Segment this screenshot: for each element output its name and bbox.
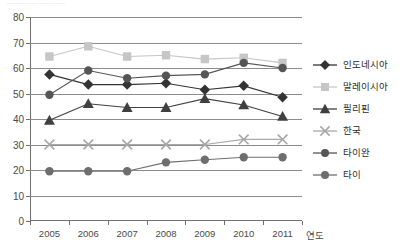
y-tick-label: 60: [13, 63, 24, 74]
plot-area: 80706050403020100 2005200620072008200920…: [30, 17, 302, 221]
x-tick-mark: [302, 221, 303, 225]
data-point: [45, 167, 53, 175]
circle-marker-icon: [312, 146, 338, 160]
x-tick-mark: [69, 221, 70, 225]
y-tick-label: 70: [13, 37, 24, 48]
x-tick-label: 2011: [272, 228, 292, 239]
series-4: [45, 59, 287, 99]
series-2: [44, 93, 288, 125]
data-point: [44, 115, 55, 125]
data-point: [84, 42, 92, 50]
data-point: [84, 167, 92, 175]
circle-marker-icon: [312, 168, 338, 182]
data-point: [278, 153, 286, 161]
series-3: [45, 135, 288, 150]
cross-marker-icon: [312, 124, 338, 138]
x-tick-mark: [263, 221, 264, 225]
x-tick-label: 2008: [155, 228, 176, 239]
data-point: [277, 92, 288, 103]
data-point: [84, 66, 92, 74]
diamond-marker-icon: [312, 58, 338, 72]
y-tick-label: 0: [18, 216, 24, 227]
series-layer: [30, 17, 302, 221]
legend-item[interactable]: 필리핀: [312, 102, 402, 116]
data-point: [199, 93, 210, 103]
x-tick-mark: [147, 221, 148, 225]
data-point: [162, 51, 170, 59]
data-point: [123, 52, 131, 60]
y-tick-label: 40: [13, 114, 24, 125]
x-tick-mark: [30, 221, 31, 225]
data-point: [278, 64, 286, 72]
triangle-marker-icon: [312, 102, 338, 116]
data-point: [45, 52, 53, 60]
data-point: [123, 167, 131, 175]
legend-label: 한국: [343, 124, 361, 138]
clipped-header-text: ——— —— —— ——: [6, 0, 126, 6]
x-tick-mark: [224, 221, 225, 225]
x-axis-title: 연도: [306, 228, 324, 242]
legend-item[interactable]: 타이완: [312, 146, 402, 160]
y-tick-label: 10: [13, 190, 24, 201]
x-tick-label: 2006: [78, 228, 99, 239]
legend-item[interactable]: 인도네시아: [312, 58, 402, 72]
data-point: [83, 79, 94, 90]
legend-item[interactable]: 타이: [312, 168, 402, 182]
x-tick-label: 2005: [39, 228, 60, 239]
legend-label: 인도네시아: [343, 58, 388, 72]
legend-label: 타이: [343, 168, 361, 182]
data-point: [123, 74, 131, 82]
data-point: [162, 158, 170, 166]
y-tick-label: 20: [13, 165, 24, 176]
y-tick-label: 80: [13, 12, 24, 23]
data-point: [240, 59, 248, 67]
y-tick-label: 50: [13, 88, 24, 99]
square-marker-icon: [312, 80, 338, 94]
y-tick-label: 30: [13, 139, 24, 150]
series-5: [45, 153, 287, 175]
data-point: [201, 156, 209, 164]
x-tick-label: 2009: [194, 228, 215, 239]
data-point: [162, 71, 170, 79]
x-tick-mark: [108, 221, 109, 225]
x-tick-mark: [185, 221, 186, 225]
x-tick-label: 2010: [233, 228, 254, 239]
data-point: [238, 81, 249, 92]
data-point: [201, 70, 209, 78]
legend-label: 타이완: [343, 146, 370, 160]
chart-legend: 인도네시아말레이시아필리핀한국타이완타이: [312, 58, 402, 182]
data-point: [44, 69, 55, 80]
data-point: [201, 55, 209, 63]
data-point: [45, 91, 53, 99]
data-point: [240, 153, 248, 161]
x-tick-label: 2007: [117, 228, 138, 239]
data-point: [83, 98, 94, 108]
legend-label: 말레이시아: [343, 80, 388, 94]
data-point: [277, 111, 288, 121]
legend-item[interactable]: 한국: [312, 124, 402, 138]
legend-label: 필리핀: [343, 102, 370, 116]
legend-item[interactable]: 말레이시아: [312, 80, 402, 94]
line-chart: ——— —— —— —— 80706050403020100 200520062…: [0, 0, 402, 251]
